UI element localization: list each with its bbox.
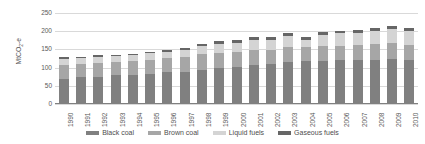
legend-label: Brown coal <box>164 129 199 136</box>
y-axis-tick-label: 150 <box>41 46 52 53</box>
x-axis-tick-label: 2003 <box>291 113 298 127</box>
legend-item[interactable]: Liquid fuels <box>213 129 264 136</box>
bar <box>232 40 242 104</box>
x-axis-tick-label: 1990 <box>67 113 74 127</box>
bar-segment <box>59 65 69 79</box>
x-axis-tick-label: 1998 <box>205 113 212 127</box>
bar-segment <box>180 72 190 104</box>
x-axis-tick-label: 1999 <box>222 113 229 127</box>
bar-segment <box>404 31 414 45</box>
bar-segment <box>249 40 259 50</box>
bar <box>249 37 259 104</box>
bar-segment <box>266 50 276 64</box>
bar <box>301 37 311 104</box>
bar-segment <box>145 60 155 74</box>
bar <box>335 31 345 105</box>
y-axis-tick-label: 100 <box>41 65 52 72</box>
legend-item[interactable]: Brown coal <box>148 129 199 136</box>
bar-segment <box>283 47 293 62</box>
bar-segment <box>128 61 138 74</box>
bar <box>59 57 69 104</box>
bar <box>404 28 414 104</box>
bar-segment <box>214 53 224 68</box>
bar-segment <box>266 40 276 50</box>
bar-segment <box>162 58 172 72</box>
bar-segment <box>76 64 86 77</box>
x-axis-tick-label: 2000 <box>240 113 247 127</box>
bar <box>162 50 172 104</box>
legend-label: Black coal <box>102 129 134 136</box>
bar-segment <box>318 46 328 61</box>
bar-segment <box>249 50 259 65</box>
y-axis-tick-label: 250 <box>41 10 52 17</box>
bar-segment <box>76 77 86 104</box>
x-axis-tick-label: 1992 <box>101 113 108 127</box>
bar-segment <box>162 72 172 104</box>
plot-area <box>55 13 418 104</box>
bar-segment <box>93 63 103 77</box>
bar-segment <box>335 46 345 61</box>
bar-segment <box>249 65 259 104</box>
bar-segment <box>387 29 397 43</box>
bar-segment <box>197 70 207 104</box>
x-axis-tick-label: 2001 <box>257 113 264 127</box>
x-axis-tick-label: 1995 <box>153 113 160 127</box>
bar-segment <box>197 46 207 54</box>
bar-segment <box>353 33 363 45</box>
bar <box>266 37 276 104</box>
bar-segment <box>404 60 414 104</box>
legend-swatch-icon <box>86 131 99 135</box>
bar-segment <box>301 61 311 104</box>
bar <box>318 32 328 104</box>
bar-segment <box>111 75 121 104</box>
stacked-bar-chart: MtCO2-e 050100150200250 1990199119921993… <box>0 0 425 144</box>
legend-item[interactable]: Gaseous fuels <box>278 129 339 136</box>
y-axis-labels: 050100150200250 <box>28 8 52 109</box>
bar-segment <box>59 79 69 104</box>
bar-segment <box>283 36 293 48</box>
bar-segment <box>335 33 345 45</box>
x-axis-tick-label: 1991 <box>84 113 91 127</box>
bar-segment <box>318 61 328 104</box>
bar <box>370 28 380 104</box>
bar-segment <box>128 75 138 104</box>
bar-segment <box>145 74 155 104</box>
legend-swatch-icon <box>278 131 291 135</box>
bar <box>145 52 155 104</box>
bar-segment <box>111 62 121 75</box>
legend-swatch-icon <box>148 131 161 135</box>
x-axis-tick-label: 2007 <box>361 113 368 127</box>
bar <box>111 55 121 104</box>
bar-segment <box>180 57 190 72</box>
bar-segment <box>318 35 328 46</box>
bar-segment <box>232 43 242 53</box>
bar <box>387 26 397 104</box>
x-axis-tick-label: 2010 <box>412 113 419 127</box>
legend-item[interactable]: Black coal <box>86 129 134 136</box>
y-axis-tick-label: 0 <box>48 101 52 108</box>
bar-segment <box>93 77 103 104</box>
y-axis-title: MtCO2-e <box>15 23 25 79</box>
bar-segment <box>335 60 345 104</box>
chart-legend: Black coalBrown coalLiquid fuelsGaseous … <box>0 129 425 136</box>
legend-swatch-icon <box>213 131 226 135</box>
x-axis-tick-label: 2002 <box>274 113 281 127</box>
bar-segment <box>232 52 242 67</box>
x-axis-labels: 1990199119921993199419951996199719981999… <box>55 104 418 128</box>
bar-segment <box>180 50 190 57</box>
x-axis-tick-label: 1994 <box>136 113 143 127</box>
x-axis-tick-label: 2009 <box>395 113 402 127</box>
bar <box>214 41 224 104</box>
x-axis-tick-label: 1996 <box>170 113 177 127</box>
x-axis-tick-label: 2005 <box>326 113 333 127</box>
bar-group <box>55 13 418 104</box>
bar-segment <box>387 43 397 59</box>
legend-label: Gaseous fuels <box>294 129 339 136</box>
bar-segment <box>370 44 380 59</box>
bar-segment <box>214 44 224 53</box>
bar-segment <box>232 67 242 104</box>
x-axis-tick-label: 1993 <box>119 113 126 127</box>
bar <box>283 33 293 104</box>
x-axis-tick-label: 2008 <box>378 113 385 127</box>
x-axis-tick-label: 2004 <box>309 113 316 127</box>
